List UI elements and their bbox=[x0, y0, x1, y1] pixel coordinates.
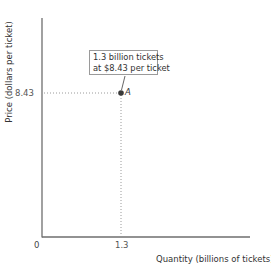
chart-plot-area bbox=[0, 0, 271, 279]
y-axis-label: Price (dollars per ticket) bbox=[4, 21, 14, 123]
annotation-line-1: 1.3 billion tickets bbox=[93, 52, 157, 63]
annotation-line-2: at $8.43 per ticket bbox=[93, 63, 157, 74]
point-a-label: A bbox=[125, 87, 131, 97]
origin-label: 0 bbox=[34, 240, 39, 250]
x-tick-label: 1.3 bbox=[115, 240, 129, 250]
point-a-marker bbox=[118, 90, 124, 96]
chart: Price (dollars per ticket) 8.43 0 1.3 Qu… bbox=[0, 0, 271, 279]
x-axis-label: Quantity (billions of tickets) bbox=[156, 254, 271, 264]
annotation-box: 1.3 billion tickets at $8.43 per ticket bbox=[89, 50, 158, 75]
y-tick-label: 8.43 bbox=[15, 88, 34, 98]
